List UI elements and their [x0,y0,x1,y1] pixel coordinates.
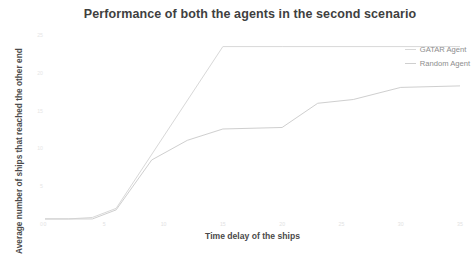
x-tick-label: 25 [329,221,353,227]
legend-item-random-agent[interactable]: Random Agent [405,58,470,69]
x-tick-label: 15 [211,221,235,227]
x-tick-label: 35 [448,221,472,227]
x-tick-label: 5 [92,221,116,227]
y-tick-label: 10 [32,145,43,151]
x-tick-label: 10 [152,221,176,227]
y-axis-title: Average number of ships that reached the… [14,36,28,254]
y-tick-label: 20 [32,70,43,76]
y-tick-label: 15 [32,108,43,114]
legend-item-gatar-agent[interactable]: GATAR Agent [405,44,470,55]
x-axis-title: Time delay of the ships [45,231,460,241]
legend-label: GATAR Agent [420,44,467,55]
legend-line-swatch-icon [405,63,416,64]
x-tick-label: 20 [270,221,294,227]
series-line-random-agent [45,86,460,219]
legend-label: Random Agent [420,58,470,69]
chart-legend: GATAR Agent Random Agent [405,44,470,69]
plot-svg [45,36,460,225]
x-tick-label: 30 [389,221,413,227]
series-line-gatar-agent [45,47,460,219]
y-tick-label: 0 [32,221,43,227]
legend-line-swatch-icon [405,49,416,50]
y-tick-label: 5 [32,183,43,189]
chart-title: Performance of both the agents in the se… [0,7,474,21]
y-tick-label: 25 [32,32,43,38]
plot-area [45,36,460,225]
